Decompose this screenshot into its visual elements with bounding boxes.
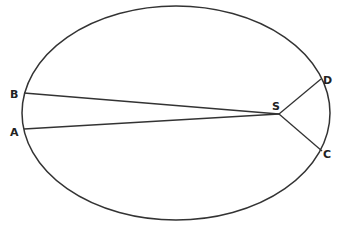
orbit-diagram: B A S D C: [0, 0, 340, 236]
label-b: B: [10, 88, 18, 101]
label-s: S: [272, 100, 280, 113]
radius-line-sa: [24, 114, 279, 129]
radius-line-sb: [24, 93, 279, 114]
radius-line-sd: [279, 79, 321, 114]
label-c: C: [323, 148, 331, 161]
label-a: A: [10, 126, 19, 139]
radius-line-sc: [279, 114, 322, 151]
orbit-ellipse: [22, 6, 330, 220]
label-d: D: [323, 74, 332, 87]
